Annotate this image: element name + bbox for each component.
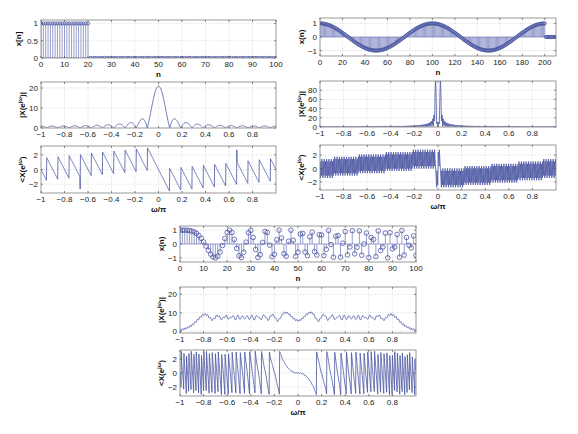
x-tick-label: −0.2 bbox=[267, 335, 283, 344]
x-tick-label: 0.6 bbox=[223, 130, 235, 139]
x-tick-label: −1 bbox=[36, 195, 46, 204]
right-magnitude-axes: −1−0.8−0.6−0.4−0.200.20.40.60.8020406080… bbox=[296, 81, 556, 138]
x-tick-label: 0.8 bbox=[527, 192, 539, 201]
x-tick-label: 0 bbox=[436, 129, 441, 138]
left-magnitude-axes: −1−0.8−0.6−0.4−0.200.20.40.60.801020|X(e… bbox=[17, 82, 276, 139]
x-tick-label: 0 bbox=[296, 398, 301, 407]
y-axis-label: <X(ejω) bbox=[296, 154, 306, 180]
x-tick-label: 70 bbox=[201, 60, 210, 69]
y-tick-label: 10 bbox=[29, 104, 38, 113]
x-tick-label: −1 bbox=[315, 192, 325, 201]
x-tick-label: 0.4 bbox=[480, 192, 492, 201]
y-tick-label: −2 bbox=[308, 178, 318, 187]
y-tick-label: 0 bbox=[173, 327, 178, 336]
y-tick-label: 0 bbox=[313, 165, 318, 174]
y-axis-label: |X(ejω)| bbox=[17, 92, 27, 118]
x-tick-label: 0.2 bbox=[456, 192, 468, 201]
x-tick-label: 10 bbox=[199, 264, 208, 273]
x-tick-label: 0.2 bbox=[456, 129, 468, 138]
x-axis-label: ω/π bbox=[430, 202, 445, 211]
x-tick-label: 50 bbox=[294, 264, 303, 273]
y-tick-label: 1 bbox=[34, 19, 39, 28]
x-tick-label: −0.8 bbox=[196, 335, 212, 344]
x-tick-label: −0.4 bbox=[104, 195, 120, 204]
y-tick-label: 0 bbox=[34, 124, 39, 133]
x-tick-label: 0 bbox=[178, 264, 183, 273]
x-axis-label: n bbox=[156, 70, 161, 79]
x-tick-label: 0 bbox=[318, 58, 323, 67]
x-tick-label: −0.2 bbox=[407, 129, 423, 138]
x-tick-label: 40 bbox=[360, 58, 369, 67]
x-tick-label: 0.8 bbox=[247, 195, 259, 204]
y-tick-label: 20 bbox=[168, 290, 177, 299]
x-tick-label: 0.8 bbox=[387, 398, 399, 407]
x-tick-label: 120 bbox=[448, 58, 462, 67]
x-tick-label: 90 bbox=[388, 264, 397, 273]
y-tick-label: 0 bbox=[313, 33, 318, 42]
x-tick-label: 0.2 bbox=[316, 335, 328, 344]
y-tick-label: 1 bbox=[313, 19, 318, 28]
center-magnitude-axes: −1−0.8−0.6−0.4−0.200.20.40.60.801020|X(e… bbox=[156, 287, 416, 344]
x-tick-label: 100 bbox=[409, 264, 423, 273]
x-tick-label: −0.4 bbox=[383, 192, 399, 201]
x-tick-label: 0.8 bbox=[247, 130, 259, 139]
x-tick-label: 0 bbox=[39, 60, 44, 69]
y-tick-label: 0 bbox=[313, 123, 318, 132]
y-tick-label: 0 bbox=[34, 166, 39, 175]
y-axis-label: <X(ejω) bbox=[17, 156, 27, 182]
x-tick-label: 160 bbox=[493, 58, 507, 67]
y-tick-label: 0.5 bbox=[27, 37, 39, 46]
x-tick-label: 10 bbox=[60, 60, 69, 69]
x-tick-label: 0.8 bbox=[387, 335, 399, 344]
x-tick-label: −0.6 bbox=[80, 195, 96, 204]
x-tick-label: 140 bbox=[471, 58, 485, 67]
x-tick-label: −1 bbox=[175, 335, 185, 344]
x-tick-label: 0.4 bbox=[200, 195, 212, 204]
left-phase-axes: −1−0.8−0.6−0.4−0.200.20.40.60.8−202ω/π<X… bbox=[17, 146, 276, 214]
x-tick-label: 90 bbox=[248, 60, 257, 69]
x-tick-label: 0.6 bbox=[503, 129, 515, 138]
x-tick-label: 40 bbox=[131, 60, 140, 69]
x-tick-label: 40 bbox=[270, 264, 279, 273]
x-tick-label: 60 bbox=[317, 264, 326, 273]
y-axis-label: |X(ejω)| bbox=[296, 91, 306, 117]
x-tick-label: 0.6 bbox=[223, 195, 235, 204]
y-tick-label: −2 bbox=[29, 180, 39, 189]
x-tick-label: 50 bbox=[154, 60, 163, 69]
x-tick-label: 60 bbox=[383, 58, 392, 67]
x-tick-label: 0.6 bbox=[363, 335, 375, 344]
x-tick-label: 0.4 bbox=[340, 398, 352, 407]
x-tick-label: −0.6 bbox=[80, 130, 96, 139]
x-tick-label: 0.2 bbox=[316, 398, 328, 407]
y-tick-label: 10 bbox=[168, 309, 177, 318]
x-tick-label: −0.8 bbox=[336, 192, 352, 201]
y-tick-label: −1 bbox=[168, 254, 178, 263]
x-tick-label: −1 bbox=[175, 398, 185, 407]
x-tick-label: −0.2 bbox=[267, 398, 283, 407]
x-tick-label: −0.2 bbox=[127, 130, 143, 139]
x-tick-label: −0.6 bbox=[359, 192, 375, 201]
x-axis-label: ω/π bbox=[290, 408, 305, 417]
x-axis-label: n bbox=[296, 274, 301, 283]
y-tick-label: 2 bbox=[34, 151, 39, 160]
x-tick-label: 0.4 bbox=[480, 129, 492, 138]
x-tick-label: 80 bbox=[364, 264, 373, 273]
y-tick-label: 20 bbox=[29, 84, 38, 93]
x-tick-label: 20 bbox=[338, 58, 347, 67]
x-tick-label: 60 bbox=[178, 60, 187, 69]
center-signal-axes: 0102030405060708090100−101nx(n) bbox=[157, 226, 423, 283]
x-tick-label: 100 bbox=[269, 60, 283, 69]
x-tick-label: 0.4 bbox=[200, 130, 212, 139]
x-tick-label: 0 bbox=[296, 335, 301, 344]
x-tick-label: 100 bbox=[426, 58, 440, 67]
x-tick-label: 0.2 bbox=[176, 130, 188, 139]
x-tick-label: −0.6 bbox=[219, 398, 235, 407]
x-tick-label: −0.4 bbox=[383, 129, 399, 138]
y-axis-label: x[n] bbox=[14, 31, 23, 46]
x-tick-label: 0 bbox=[156, 195, 161, 204]
x-tick-label: 180 bbox=[516, 58, 530, 67]
y-tick-label: 0 bbox=[173, 240, 178, 249]
y-tick-label: 0 bbox=[34, 54, 39, 63]
x-tick-label: −0.4 bbox=[243, 398, 259, 407]
y-axis-label: |X(ejω)| bbox=[156, 297, 166, 323]
